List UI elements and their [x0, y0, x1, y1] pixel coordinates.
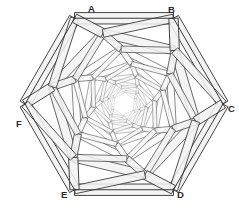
vertex-marker-a: [24, 103, 26, 105]
hexagonal-spiral-drawing: [0, 0, 239, 211]
vertex-marker-e: [172, 189, 174, 191]
vertex-label-e: E: [61, 190, 67, 200]
vertex-marker-c: [172, 17, 174, 19]
vertex-marker-b: [73, 17, 75, 19]
spiral-strut-diagonal: [73, 154, 127, 162]
vertex-label-d: D: [177, 190, 184, 200]
hexagon-rings-layer: [20, 13, 228, 196]
vertex-label-b: B: [168, 5, 175, 15]
hexagonal-spiral-figure: A B C D E F: [0, 0, 239, 211]
vertex-marker-d: [222, 103, 224, 105]
spiral-strut-radial: [69, 157, 80, 190]
vertex-label-a: A: [88, 4, 95, 14]
spiral-strut-radial: [169, 18, 180, 51]
vertex-marker-f: [73, 189, 75, 191]
spiral-strut-diagonal: [121, 46, 175, 54]
vertex-label-f: F: [16, 119, 22, 129]
spiral-strut-diagonal: [152, 101, 157, 131]
vertex-label-c: C: [228, 104, 235, 114]
spiral-strut-diagonal: [91, 77, 96, 107]
